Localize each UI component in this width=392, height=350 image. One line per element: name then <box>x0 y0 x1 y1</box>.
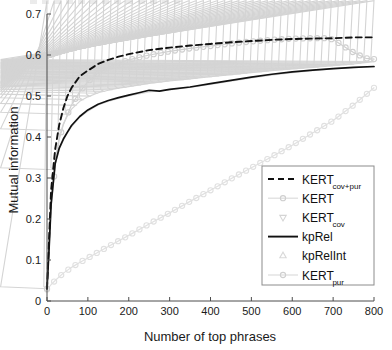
x-tick-label: 300 <box>160 305 178 317</box>
chart-figure: 00.10.20.30.40.50.60.7010020030040050060… <box>0 0 392 350</box>
y-tick-label: 0.7 <box>26 8 41 20</box>
legend-label: kpRel <box>302 230 333 244</box>
legend-label-subscript: pur <box>332 278 344 287</box>
x-tick-label: 800 <box>365 305 383 317</box>
y-tick-label: 0 <box>35 295 41 307</box>
legend-label: KERT <box>302 211 334 225</box>
legend-label-subscript: cov <box>332 220 344 229</box>
y-tick-label: 0.1 <box>26 254 41 266</box>
y-tick-label: 0.6 <box>26 49 41 61</box>
legend-label-subscript: cov+pur <box>332 182 361 191</box>
x-axis-title: Number of top phrases <box>144 329 277 344</box>
mutual-information-line-chart: 00.10.20.30.40.50.60.7010020030040050060… <box>0 0 392 350</box>
legend-label: KERT <box>302 173 334 187</box>
x-tick-label: 100 <box>79 305 97 317</box>
x-tick-label: 0 <box>44 305 50 317</box>
y-tick-label: 0.4 <box>26 131 41 143</box>
y-tick-label: 0.2 <box>26 213 41 225</box>
x-tick-label: 400 <box>201 305 219 317</box>
y-tick-label: 0.3 <box>26 172 41 184</box>
y-tick-label: 0.5 <box>26 90 41 102</box>
x-tick-label: 200 <box>120 305 138 317</box>
x-tick-label: 600 <box>283 305 301 317</box>
y-axis-title: Mutual information <box>6 107 21 214</box>
legend-label: KERT <box>302 269 334 283</box>
legend-label: KERT <box>302 192 334 206</box>
x-tick-label: 500 <box>242 305 260 317</box>
x-tick-label: 700 <box>324 305 342 317</box>
cropped-title-remnant <box>30 0 180 4</box>
legend-label: kpRelInt <box>302 249 347 263</box>
chart-legend: KERTcov+purKERTKERTcovkpRelkpRelIntKERTp… <box>262 166 374 287</box>
